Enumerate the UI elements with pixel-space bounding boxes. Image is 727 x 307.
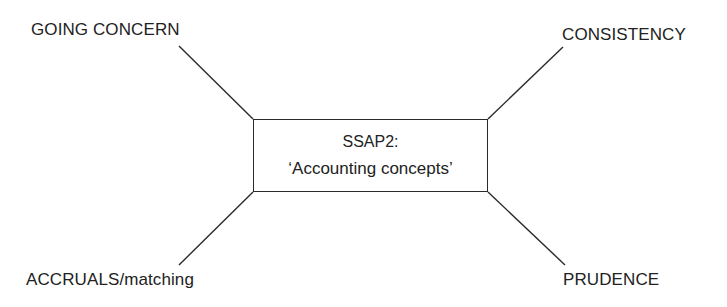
connector-consistency — [488, 47, 563, 119]
concept-accruals-matching: ACCRUALS/matching — [26, 270, 194, 290]
accounting-concepts-diagram: GOING CONCERN CONSISTENCY ACCRUALS/match… — [0, 0, 727, 307]
concept-consistency: CONSISTENCY — [562, 25, 686, 45]
concept-prudence: PRUDENCE — [563, 270, 659, 290]
connector-going-concern — [179, 46, 253, 119]
ssap2-box: SSAP2: ‘Accounting concepts’ — [253, 119, 488, 192]
ssap2-title: SSAP2: — [342, 132, 398, 152]
connector-accruals — [179, 192, 253, 265]
connector-prudence — [488, 192, 565, 265]
ssap2-subtitle: ‘Accounting concepts’ — [288, 159, 452, 179]
concept-going-concern: GOING CONCERN — [31, 20, 180, 40]
